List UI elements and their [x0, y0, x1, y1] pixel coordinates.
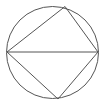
- segment-BC: [65, 7, 98, 53]
- diagram-canvas: [0, 0, 102, 106]
- segment-DA: [7, 52, 58, 99]
- segment-AB: [7, 7, 65, 53]
- circle-diagram: [0, 0, 102, 106]
